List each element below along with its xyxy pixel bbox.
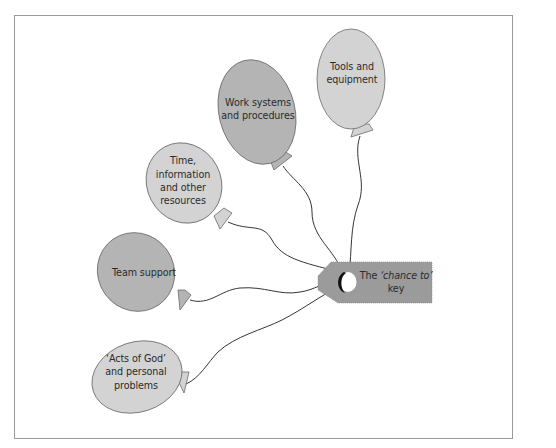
string-time: [228, 222, 340, 272]
string-acts-of-god: [186, 286, 340, 384]
label-line: Team support: [112, 266, 176, 279]
label-line: Time,: [156, 154, 210, 167]
label-line: equipment: [326, 73, 377, 86]
key-label-line1: The ‘chance to’: [360, 269, 433, 282]
label-line: Tools and: [326, 60, 377, 73]
label-line: resources: [156, 194, 210, 207]
label-line: and personal: [105, 365, 166, 378]
label-line: and procedures: [221, 109, 294, 122]
label-chance-to-key: The ‘chance to’ key: [358, 266, 434, 298]
key-label-line2: key: [360, 282, 433, 295]
label-line: Work systems: [221, 96, 294, 109]
label-time-information-resources: Time, information and other resources: [146, 152, 220, 210]
label-tools-and-equipment: Tools and equipment: [316, 56, 388, 90]
label-acts-of-god: ‘Acts of God’ and personal problems: [96, 350, 176, 394]
label-line: problems: [105, 379, 166, 392]
balloon-diagram: [0, 0, 556, 448]
string-tools: [349, 136, 361, 275]
label-line: ‘Acts of God’: [105, 352, 166, 365]
label-line: information: [156, 168, 210, 181]
label-team-support: Team support: [104, 264, 184, 282]
string-work-systems: [283, 166, 342, 272]
label-work-systems-and-procedures: Work systems and procedures: [218, 92, 298, 126]
label-line: and other: [156, 181, 210, 194]
string-team-support: [190, 282, 338, 301]
key-label-prefix: The: [360, 270, 381, 281]
key-label-italic: ‘chance to’: [380, 270, 432, 281]
